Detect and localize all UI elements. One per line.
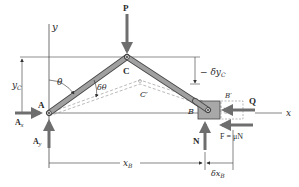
mechanism-diagram: y x P C C′ A B B′ Q θ δθ yC − δyC Ax Ay … — [0, 0, 299, 187]
label-ay: Ay — [33, 137, 42, 147]
label-theta: θ — [57, 77, 63, 87]
label-n: N — [193, 136, 200, 146]
label-delta-xb: δxB — [211, 169, 225, 179]
label-y-axis: y — [51, 21, 58, 32]
joint-a-center — [48, 112, 50, 114]
label-p: P — [123, 3, 129, 13]
label-c-prime: C′ — [140, 90, 148, 99]
joint-b-center — [207, 109, 209, 111]
label-f: F = μN — [220, 132, 243, 141]
label-x-axis: x — [286, 108, 291, 118]
label-b-prime: B′ — [224, 92, 232, 100]
label-yc: yC — [11, 80, 22, 91]
label-ax: Ax — [15, 118, 24, 128]
label-a: A — [38, 100, 45, 110]
label-b: B — [187, 107, 194, 116]
label-neg-delta-yc: − δyC — [200, 67, 226, 78]
label-xb: xB — [123, 158, 133, 169]
label-q: Q — [249, 96, 256, 106]
label-c: C — [123, 66, 130, 76]
joint-c-center — [126, 56, 128, 58]
diagram-canvas: y x P C C′ A B B′ Q θ δθ yC − δyC Ax Ay … — [0, 0, 299, 187]
label-delta-theta: δθ — [97, 83, 107, 92]
